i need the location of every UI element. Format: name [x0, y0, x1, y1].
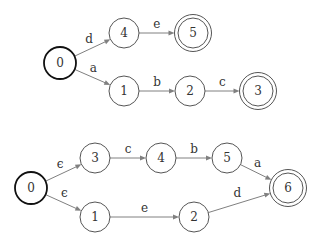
edge-label: d	[233, 186, 241, 200]
edge-label: a	[90, 61, 97, 75]
start-state-0: 0	[44, 47, 76, 79]
state-label: 2	[190, 210, 198, 224]
edge-4-5: e	[139, 17, 175, 36]
edge-2-3: c	[205, 75, 240, 94]
accept-state-6: 6	[270, 170, 307, 207]
state-1: 1	[80, 202, 110, 232]
automata-diagram: deabcϵcbaϵed 0451230345612	[0, 0, 320, 244]
state-5: 5	[212, 143, 242, 173]
start-state-0: 0	[15, 172, 47, 204]
edge-label: ϵ	[61, 186, 68, 200]
state-label: 6	[284, 181, 292, 195]
edge-label: a	[254, 156, 261, 170]
state-label: 4	[120, 26, 128, 40]
arrowhead-icon	[169, 89, 175, 94]
edge-0-4: d	[74, 32, 111, 57]
edge-0-1: a	[74, 61, 111, 85]
state-1: 1	[109, 76, 139, 106]
state-4: 4	[146, 143, 176, 173]
state-2: 2	[179, 202, 209, 232]
arrowhead-icon	[234, 89, 240, 94]
state-label: 2	[186, 84, 194, 98]
state-label: 5	[223, 151, 231, 165]
state-label: 1	[91, 210, 99, 224]
arrowhead-icon	[173, 215, 179, 220]
edge-2-6: d	[208, 186, 270, 212]
arrowhead-icon	[169, 31, 175, 36]
state-label: 1	[120, 84, 128, 98]
edge-label: b	[153, 75, 161, 89]
state-4: 4	[109, 18, 139, 48]
accept-state-5: 5	[175, 15, 212, 52]
arrowhead-icon	[206, 156, 212, 161]
state-label: 3	[254, 84, 262, 98]
state-label: 4	[157, 151, 165, 165]
edge-label: e	[153, 17, 160, 31]
edge-5-6: a	[240, 156, 271, 180]
edge-0-1: ϵ	[45, 186, 82, 211]
dfa-top-edges: deabc	[74, 17, 240, 94]
edge-label: e	[141, 201, 148, 215]
edge-1-2: b	[139, 75, 175, 94]
edge-label: d	[85, 32, 93, 46]
accept-state-3: 3	[240, 73, 277, 110]
edge-label: c	[125, 142, 132, 156]
state-3: 3	[80, 143, 110, 173]
edge-4-5: b	[176, 142, 212, 161]
edge-1-2: e	[110, 201, 179, 220]
arrowhead-icon	[140, 156, 146, 161]
arrowhead-icon	[264, 193, 270, 198]
state-label: 3	[91, 151, 99, 165]
edge-3-4: c	[110, 142, 146, 161]
edge-label: ϵ	[57, 157, 64, 171]
state-label: 0	[56, 56, 64, 70]
edge-label: c	[219, 75, 226, 89]
edge-0-3: ϵ	[45, 157, 82, 182]
state-label: 0	[27, 181, 35, 195]
edge-label: b	[190, 142, 198, 156]
state-2: 2	[175, 76, 205, 106]
state-label: 5	[189, 26, 197, 40]
